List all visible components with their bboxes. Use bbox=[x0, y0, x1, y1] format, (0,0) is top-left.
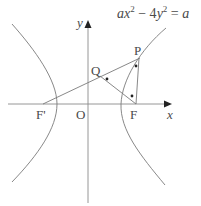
diagram-canvas bbox=[0, 0, 201, 206]
hyperbola-left-branch bbox=[12, 24, 57, 182]
eq-rhs-a: a bbox=[182, 6, 189, 21]
y-axis-arrow-icon bbox=[85, 20, 92, 28]
eq-equals: = bbox=[167, 6, 182, 21]
point-p-label: P bbox=[134, 44, 141, 57]
eq-minus-four: − 4 bbox=[135, 6, 157, 21]
origin-label: O bbox=[76, 108, 85, 121]
point-q-label: Q bbox=[91, 64, 100, 77]
eq-coef-a: a bbox=[117, 6, 124, 21]
angle-marker-f bbox=[131, 95, 134, 98]
y-axis-label: y bbox=[77, 16, 83, 29]
focus-f-label: F bbox=[130, 108, 137, 121]
hyperbola-diagram: ax2 − 4y2 = a y x O F F' P Q bbox=[0, 0, 201, 206]
angle-marker-p bbox=[135, 65, 138, 68]
angle-marker-q bbox=[106, 78, 109, 81]
focus-fprime-label: F' bbox=[36, 108, 46, 121]
segment-q-f bbox=[100, 76, 136, 104]
x-axis-label: x bbox=[167, 108, 173, 121]
hyperbola-right-branch bbox=[121, 28, 166, 185]
hyperbola-equation: ax2 − 4y2 = a bbox=[117, 5, 189, 21]
